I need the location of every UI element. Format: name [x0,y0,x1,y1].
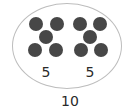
left-group-count: 5 [42,65,51,79]
counter-dot [28,43,42,57]
total-count: 10 [61,94,79,108]
counter-dot [93,17,107,31]
counter-dot [94,43,108,57]
counter-dot [50,17,64,31]
counter-dot [73,17,87,31]
counter-dot [74,43,88,57]
counter-dot [83,30,97,44]
number-diagram: 5 5 10 [0,0,126,109]
counter-dot [39,30,53,44]
right-group-count: 5 [86,65,95,79]
counter-dot [29,17,43,31]
counter-dot [49,43,63,57]
